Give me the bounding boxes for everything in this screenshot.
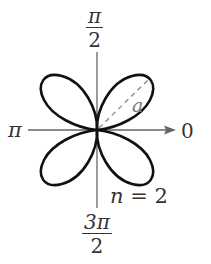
- angle-label-top-denominator: 2: [88, 28, 101, 50]
- petal-upper-left: [41, 75, 97, 130]
- petal-length-label: a: [132, 96, 143, 115]
- petal-lower-right: [97, 130, 153, 185]
- angle-label-bottom-numerator: 3π: [82, 212, 112, 233]
- angle-label-zero: 0: [181, 121, 194, 141]
- angle-label-pi: π: [8, 120, 22, 141]
- angle-label-3pi-over-2: 3π 2: [82, 212, 112, 256]
- angle-label-bottom-denominator: 2: [91, 234, 104, 256]
- curve-label-variable: n: [110, 184, 124, 208]
- curve-label-value: = 2: [130, 184, 168, 208]
- angle-label-top-numerator: π: [86, 6, 103, 27]
- curve-label: n = 2: [110, 186, 168, 207]
- petal-lower-left: [41, 130, 97, 185]
- angle-label-pi-over-2: π 2: [86, 6, 103, 50]
